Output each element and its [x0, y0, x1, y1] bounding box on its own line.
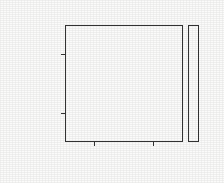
x-tick-mark-1 [153, 142, 154, 146]
x-tick-mark-0 [94, 142, 95, 146]
matrix-cell-disease-disease [124, 84, 182, 142]
matrix-cell-disease-healthy [66, 84, 124, 142]
matrix-plot-area [65, 25, 183, 142]
matrix-cell-healthy-healthy [66, 26, 124, 84]
colorbar-gradient [189, 26, 198, 141]
colorbar [188, 25, 199, 142]
matrix-cell-healthy-disease [124, 26, 182, 84]
confusion-matrix-figure [0, 0, 224, 183]
